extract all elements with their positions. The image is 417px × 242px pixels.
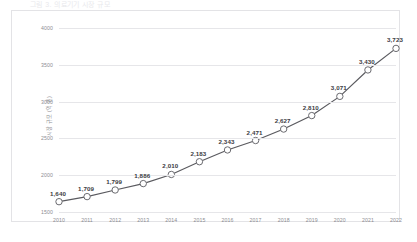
y-axis-tick-label: 4000: [41, 25, 53, 31]
plot-area: 1500200025003000350040002010201120122013…: [59, 28, 396, 212]
data-point-marker: [84, 193, 90, 199]
data-point-label: 1,886: [134, 172, 150, 179]
chart-screenshot: 그림 3. 의료기기 시장 규모 시장 규모 (억 원) 15002000250…: [0, 0, 417, 242]
x-axis-tick-label: 2021: [362, 217, 374, 223]
x-axis-tick-label: 2014: [165, 217, 177, 223]
data-point-marker: [196, 159, 202, 165]
x-axis-tick-label: 2012: [109, 217, 121, 223]
gridline: [59, 175, 396, 176]
x-axis-tick-label: 2018: [278, 217, 290, 223]
data-point-label: 2,343: [219, 138, 235, 145]
x-axis-tick-label: 2019: [306, 217, 318, 223]
data-point-marker: [112, 187, 118, 193]
data-point-marker: [309, 112, 315, 118]
chart-frame: 시장 규모 (억 원) 1500200025003000350040002010…: [11, 10, 400, 222]
data-point-label: 3,430: [359, 58, 375, 65]
data-point-marker: [56, 198, 62, 204]
x-axis-tick-label: 2022: [390, 217, 402, 223]
cropped-title: 그림 3. 의료기기 시장 규모: [0, 0, 417, 9]
data-point-label: 1,799: [106, 178, 122, 185]
data-point-label: 1,709: [78, 185, 94, 192]
data-point-label: 1,640: [50, 190, 66, 197]
x-axis-tick-label: 2020: [334, 217, 346, 223]
data-point-marker: [280, 126, 286, 132]
x-axis-tick-label: 2016: [222, 217, 234, 223]
data-point-marker: [365, 67, 371, 73]
y-axis-tick-label: 3500: [41, 62, 53, 68]
data-point-label: 3,723: [387, 36, 403, 43]
data-point-marker: [140, 180, 146, 186]
data-point-label: 2,471: [247, 129, 263, 136]
gridline: [59, 212, 396, 213]
data-point-label: 2,627: [275, 117, 291, 124]
x-axis-tick-label: 2015: [193, 217, 205, 223]
y-axis-tick-label: 2500: [41, 135, 53, 141]
data-point-marker: [224, 147, 230, 153]
x-axis-tick-label: 2011: [81, 217, 93, 223]
y-axis-tick-label: 3000: [41, 99, 53, 105]
x-axis-tick-label: 2017: [250, 217, 262, 223]
x-axis-tick-label: 2010: [53, 217, 65, 223]
data-point-label: 2,810: [303, 104, 319, 111]
gridline: [59, 65, 396, 66]
y-axis-tick-label: 1500: [41, 209, 53, 215]
gridline: [59, 102, 396, 103]
gridline: [59, 28, 396, 29]
data-point-label: 2,183: [190, 150, 206, 157]
data-point-label: 2,010: [162, 162, 178, 169]
data-point-marker: [393, 45, 399, 51]
y-axis-tick-label: 2000: [41, 172, 53, 178]
x-axis-tick-label: 2013: [137, 217, 149, 223]
data-point-marker: [337, 93, 343, 99]
data-point-label: 3,071: [331, 84, 347, 91]
